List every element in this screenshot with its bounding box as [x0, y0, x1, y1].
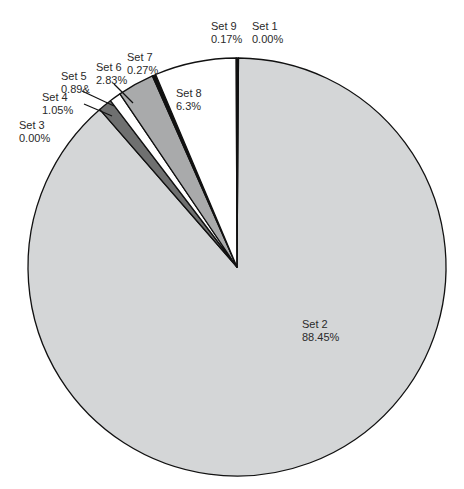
label-set4-name: Set 4 — [42, 91, 73, 104]
label-set2: Set 2 88.45% — [302, 318, 339, 344]
label-set6-name: Set 6 — [96, 61, 127, 74]
label-set3: Set 3 0.00% — [19, 119, 50, 145]
label-set4: Set 4 1.05% — [42, 91, 73, 117]
label-set9-name: Set 9 — [211, 20, 242, 33]
label-set6-value: 2.83% — [96, 74, 127, 87]
label-set5-name: Set 5 — [61, 70, 90, 83]
label-set3-name: Set 3 — [19, 119, 50, 132]
label-set1-name: Set 1 — [252, 20, 283, 33]
label-set8-name: Set 8 — [176, 87, 202, 100]
label-set1-value: 0.00% — [252, 33, 283, 46]
label-set1: Set 1 0.00% — [252, 20, 283, 46]
pie-slices — [28, 58, 446, 476]
label-set4-value: 1.05% — [42, 104, 73, 117]
label-set3-value: 0.00% — [19, 132, 50, 145]
label-set8: Set 8 6.3% — [176, 87, 202, 113]
label-set7-value: 0.27% — [127, 64, 158, 77]
label-set2-name: Set 2 — [302, 318, 339, 331]
label-set8-value: 6.3% — [176, 100, 202, 113]
label-set9-value: 0.17% — [211, 33, 242, 46]
label-set6: Set 6 2.83% — [96, 61, 127, 87]
label-set7: Set 7 0.27% — [127, 51, 158, 77]
label-set7-name: Set 7 — [127, 51, 158, 64]
label-set2-value: 88.45% — [302, 331, 339, 344]
label-set9: Set 9 0.17% — [211, 20, 242, 46]
